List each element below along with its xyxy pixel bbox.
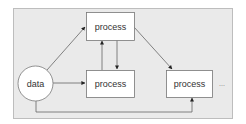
- process-top-label: process: [95, 22, 127, 32]
- process-middle-label: process: [95, 79, 127, 89]
- continuation-ellipsis: ...: [219, 80, 225, 87]
- node-process-middle: process: [87, 71, 135, 98]
- data-label: data: [27, 79, 45, 89]
- flow-diagram: data process process process ...: [0, 0, 246, 124]
- node-process-top: process: [87, 13, 135, 41]
- process-right-label: process: [174, 79, 206, 89]
- node-data: data: [18, 66, 53, 101]
- node-process-right: process: [167, 71, 213, 98]
